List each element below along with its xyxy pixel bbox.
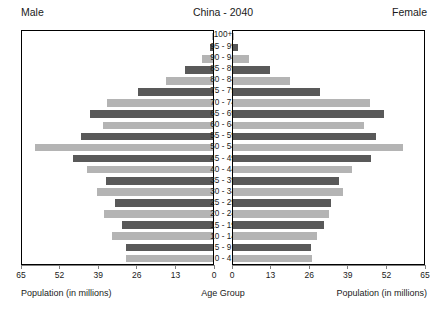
female-bar bbox=[233, 188, 343, 196]
bar-row bbox=[233, 253, 424, 264]
bar-row bbox=[233, 53, 424, 64]
age-group-label: 15 - 19 bbox=[214, 220, 232, 231]
male-axis-tick-label: 13 bbox=[171, 270, 180, 280]
female-axis-tick bbox=[309, 265, 310, 269]
bar-row bbox=[22, 86, 213, 97]
male-bar bbox=[81, 133, 213, 141]
age-group-label: 95 - 99 bbox=[214, 41, 232, 52]
male-x-axis: 65523926130 bbox=[21, 265, 214, 266]
bar-row bbox=[233, 42, 424, 53]
age-group-label: 45 - 49 bbox=[214, 153, 232, 164]
female-axis-tick-label: 0 bbox=[230, 270, 235, 280]
female-bar bbox=[233, 177, 339, 185]
female-plot-panel bbox=[232, 30, 425, 265]
bar-row bbox=[22, 53, 213, 64]
male-bar bbox=[115, 199, 213, 207]
male-bar bbox=[122, 221, 213, 229]
female-bar bbox=[233, 244, 311, 252]
bar-row bbox=[233, 120, 424, 131]
bar-row bbox=[22, 120, 213, 131]
male-axis-tick bbox=[98, 265, 99, 269]
female-bar bbox=[233, 99, 370, 107]
male-plot-panel bbox=[21, 30, 214, 265]
female-axis-tick-label: 39 bbox=[343, 270, 352, 280]
age-group-label: 90 - 94 bbox=[214, 52, 232, 63]
bar-row bbox=[22, 142, 213, 153]
female-bar bbox=[233, 66, 270, 74]
bar-row bbox=[22, 64, 213, 75]
bar-row bbox=[22, 220, 213, 231]
bar-row bbox=[233, 197, 424, 208]
male-axis-tick-label: 39 bbox=[93, 270, 102, 280]
chart-title: China - 2040 bbox=[0, 6, 446, 18]
female-bar bbox=[233, 155, 371, 163]
male-axis-tick bbox=[21, 265, 22, 269]
female-axis-tick bbox=[232, 265, 233, 269]
bar-row bbox=[22, 197, 213, 208]
bar-row bbox=[233, 75, 424, 86]
female-axis-tick-label: 26 bbox=[304, 270, 313, 280]
male-bar bbox=[97, 188, 213, 196]
male-bar-rows bbox=[22, 31, 213, 264]
age-group-label: 35 - 39 bbox=[214, 175, 232, 186]
female-bar bbox=[233, 166, 352, 174]
bar-row bbox=[233, 131, 424, 142]
age-group-label: 65 - 69 bbox=[214, 108, 232, 119]
male-bar bbox=[107, 99, 213, 107]
female-bar bbox=[233, 44, 238, 52]
male-axis-tick bbox=[59, 265, 60, 269]
female-bar bbox=[233, 144, 403, 152]
female-bar-rows bbox=[233, 31, 424, 264]
bar-row bbox=[233, 64, 424, 75]
bar-row bbox=[233, 242, 424, 253]
bar-row bbox=[22, 231, 213, 242]
age-group-label: 10 - 14 bbox=[214, 231, 232, 242]
male-axis-tick-label: 52 bbox=[55, 270, 64, 280]
chart-header: Male China - 2040 Female bbox=[0, 6, 446, 24]
female-x-axis: 01326395265 bbox=[232, 265, 425, 266]
male-bar bbox=[106, 177, 213, 185]
bar-row bbox=[22, 131, 213, 142]
male-bar bbox=[126, 244, 213, 252]
female-bar bbox=[233, 88, 320, 96]
bar-row bbox=[22, 98, 213, 109]
age-group-label: 20 - 24 bbox=[214, 209, 232, 220]
age-group-label: 40 - 44 bbox=[214, 164, 232, 175]
male-axis-tick bbox=[136, 265, 137, 269]
male-bar bbox=[103, 122, 213, 130]
female-bar bbox=[233, 232, 317, 240]
age-group-label: 60 - 64 bbox=[214, 120, 232, 131]
bar-row bbox=[233, 98, 424, 109]
male-axis-tick bbox=[214, 265, 215, 269]
male-bar bbox=[185, 66, 213, 74]
age-group-label: 85 - 89 bbox=[214, 64, 232, 75]
male-bar bbox=[90, 110, 213, 118]
age-group-label: 80 - 84 bbox=[214, 75, 232, 86]
male-bar bbox=[112, 232, 213, 240]
male-bar bbox=[87, 166, 213, 174]
female-axis-tick-label: 13 bbox=[266, 270, 275, 280]
age-group-label: 100+ bbox=[214, 30, 232, 41]
female-side-label: Female bbox=[392, 6, 427, 18]
bar-row bbox=[233, 209, 424, 220]
bar-row bbox=[233, 186, 424, 197]
female-bar bbox=[233, 221, 324, 229]
male-axis-tick-label: 65 bbox=[16, 270, 25, 280]
bar-row bbox=[22, 209, 213, 220]
male-axis-tick-label: 0 bbox=[212, 270, 217, 280]
female-bar bbox=[233, 110, 384, 118]
bar-row bbox=[233, 31, 424, 42]
male-bar bbox=[138, 88, 213, 96]
female-bar bbox=[233, 133, 376, 141]
bar-row bbox=[233, 86, 424, 97]
female-bar bbox=[233, 77, 290, 85]
female-axis-tick-label: 65 bbox=[420, 270, 429, 280]
female-axis-caption: Population (in millions) bbox=[336, 288, 427, 298]
age-group-label: 0 - 4 bbox=[214, 254, 232, 265]
male-bar bbox=[166, 77, 213, 85]
male-bar bbox=[126, 255, 213, 263]
female-bar bbox=[233, 199, 331, 207]
bar-row bbox=[22, 253, 213, 264]
bar-row bbox=[22, 175, 213, 186]
male-axis-tick bbox=[175, 265, 176, 269]
